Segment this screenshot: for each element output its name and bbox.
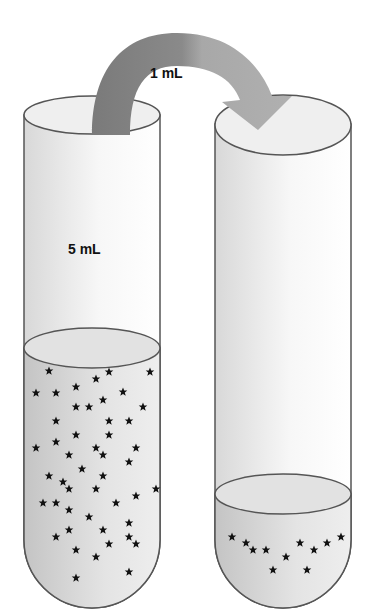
transfer-arrow-icon xyxy=(92,33,292,135)
source-tube xyxy=(24,96,160,608)
transfer-volume-label: 1 mL xyxy=(150,65,183,81)
serial-dilution-diagram xyxy=(0,0,378,616)
tube-volume-label: 5 mL xyxy=(68,241,101,257)
receiving-tube xyxy=(215,95,351,608)
